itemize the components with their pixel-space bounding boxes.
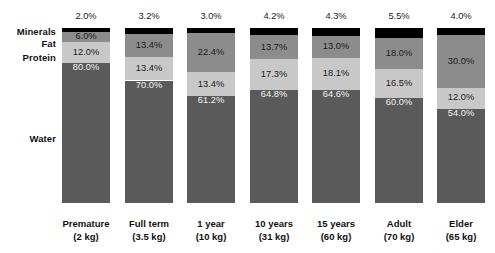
segment-value-water: 64.6%	[323, 90, 349, 99]
segment-protein[interactable]: 16.5%	[375, 69, 423, 98]
segment-minerals[interactable]	[312, 28, 360, 36]
stacked-bar-chart: MineralsFatProteinWater6.0%12.0%80.0%2.0…	[0, 0, 495, 253]
minerals-value-label: 4.3%	[312, 11, 360, 21]
row-label-fat: Fat	[0, 38, 62, 49]
segment-minerals[interactable]	[250, 28, 298, 35]
bar-1-year[interactable]: 22.4%13.4%61.2%	[187, 28, 235, 203]
bar-10-years[interactable]: 13.7%17.3%64.8%	[250, 28, 298, 203]
segment-value-fat: 13.0%	[323, 42, 349, 51]
segment-value-water: 80.0%	[73, 63, 99, 72]
segment-fat[interactable]: 13.7%	[250, 35, 298, 59]
segment-water[interactable]: 70.0%	[125, 81, 173, 204]
bar-elder[interactable]: 30.0%12.0%54.0%	[437, 28, 485, 203]
segment-value-fat: 6.0%	[75, 32, 96, 41]
segment-value-protein: 17.3%	[261, 70, 287, 79]
segment-value-protein: 13.4%	[198, 80, 224, 89]
segment-value-fat: 22.4%	[198, 48, 224, 57]
minerals-value-label: 3.2%	[125, 11, 173, 21]
minerals-value-label: 5.5%	[375, 11, 423, 21]
segment-value-protein: 18.1%	[323, 69, 349, 78]
segment-fat[interactable]: 22.4%	[187, 33, 235, 72]
segment-value-water: 70.0%	[136, 81, 162, 90]
segment-protein[interactable]: 12.0%	[437, 88, 485, 109]
segment-value-fat: 30.0%	[448, 57, 474, 66]
bar-15-years[interactable]: 13.0%18.1%64.6%	[312, 28, 360, 203]
x-axis-label-weight: (65 kg)	[421, 230, 495, 243]
segment-water[interactable]: 61.2%	[187, 96, 235, 203]
segment-protein[interactable]: 13.4%	[125, 57, 173, 80]
segment-value-water: 61.2%	[198, 96, 224, 105]
segment-value-water: 64.8%	[261, 90, 287, 99]
segment-protein[interactable]: 12.0%	[62, 42, 110, 63]
segment-protein[interactable]: 13.4%	[187, 72, 235, 95]
segment-fat[interactable]: 13.4%	[125, 34, 173, 57]
x-axis-label-6: Elder(65 kg)	[421, 217, 495, 243]
segment-value-fat: 13.4%	[136, 41, 162, 50]
x-axis-label-name: 10 years	[255, 218, 293, 229]
segment-water[interactable]: 64.8%	[250, 90, 298, 203]
segment-fat[interactable]: 6.0%	[62, 32, 110, 43]
segment-fat[interactable]: 13.0%	[312, 36, 360, 59]
x-axis-label-name: Elder	[449, 218, 473, 229]
minerals-value-label: 3.0%	[187, 11, 235, 21]
segment-protein[interactable]: 18.1%	[312, 58, 360, 90]
segment-water[interactable]: 80.0%	[62, 63, 110, 203]
row-label-protein: Protein	[0, 52, 62, 63]
minerals-value-label: 2.0%	[62, 11, 110, 21]
segment-value-fat: 13.7%	[261, 43, 287, 52]
segment-fat[interactable]: 30.0%	[437, 35, 485, 88]
minerals-value-label: 4.2%	[250, 11, 298, 21]
segment-minerals[interactable]	[437, 28, 485, 35]
segment-value-water: 60.0%	[386, 98, 412, 107]
segment-value-protein: 12.0%	[448, 93, 474, 102]
segment-value-fat: 18.0%	[386, 49, 412, 58]
minerals-value-label: 4.0%	[437, 11, 485, 21]
row-label-minerals: Minerals	[0, 26, 62, 37]
bar-premature[interactable]: 6.0%12.0%80.0%	[62, 28, 110, 203]
segment-value-protein: 12.0%	[73, 48, 99, 57]
segment-protein[interactable]: 17.3%	[250, 59, 298, 89]
segment-value-water: 54.0%	[448, 109, 474, 118]
segment-value-protein: 16.5%	[386, 79, 412, 88]
segment-water[interactable]: 60.0%	[375, 98, 423, 203]
x-axis-label-name: 1 year	[197, 218, 224, 229]
segment-water[interactable]: 64.6%	[312, 90, 360, 203]
x-axis-label-name: 15 years	[317, 218, 355, 229]
segment-minerals[interactable]	[375, 28, 423, 38]
segment-fat[interactable]: 18.0%	[375, 38, 423, 70]
segment-value-protein: 13.4%	[136, 64, 162, 73]
bar-adult[interactable]: 18.0%16.5%60.0%	[375, 28, 423, 203]
x-axis-label-name: Full term	[129, 218, 169, 229]
row-label-water: Water	[0, 133, 62, 144]
bar-full-term[interactable]: 13.4%13.4%70.0%	[125, 28, 173, 203]
x-axis-label-name: Premature	[63, 218, 110, 229]
x-axis-label-name: Adult	[387, 218, 411, 229]
segment-water[interactable]: 54.0%	[437, 109, 485, 204]
